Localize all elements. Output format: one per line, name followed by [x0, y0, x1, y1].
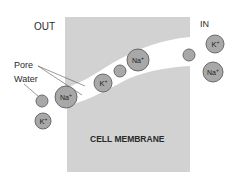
out-label: OUT [34, 21, 55, 32]
sodium-ion: Na+ [55, 86, 77, 108]
potassium-ion: K+ [94, 74, 112, 92]
membrane-diagram: OUT IN Pore Water CELL MEMBRANE K+Na+K+N… [0, 0, 245, 182]
cell-membrane-lower [67, 66, 190, 172]
sodium-ion: Na+ [127, 49, 149, 71]
sodium-ion: Na+ [203, 62, 223, 82]
potassium-ion: K+ [35, 113, 51, 129]
in-label: IN [200, 19, 209, 29]
pore-label: Pore [14, 60, 33, 70]
water-molecule [183, 49, 195, 61]
membrane-label: CELL MEMBRANE [90, 134, 165, 144]
water-molecule [114, 65, 126, 77]
water-pointer-line [24, 84, 38, 96]
water-label: Water [14, 74, 38, 84]
potassium-ion: K+ [206, 35, 224, 53]
water-molecule [36, 95, 48, 107]
